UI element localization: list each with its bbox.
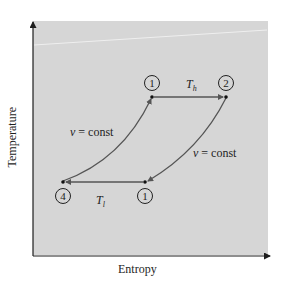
label-v-const-left: v = const [70,126,113,138]
state-dot [143,180,147,184]
state-label-top-left: 1 [144,75,160,91]
cycle-diagram [0,0,281,282]
state-label-bottom-left: 4 [55,188,71,204]
process-4-1 [63,99,151,181]
label-t-high: Th [186,78,197,93]
state-label-bottom-right: 1 [137,188,153,204]
state-label-top-right: 2 [218,75,234,91]
y-axis-label: Temperature [5,108,20,168]
label-v-const-right: v = const [193,147,236,159]
process-2-1 [148,98,226,181]
state-dot [61,180,65,184]
state-dot [224,95,228,99]
state-dot [150,95,154,99]
x-axis-label: Entropy [118,262,157,277]
highlight-line [34,30,267,45]
label-t-low: Tl [96,194,105,209]
